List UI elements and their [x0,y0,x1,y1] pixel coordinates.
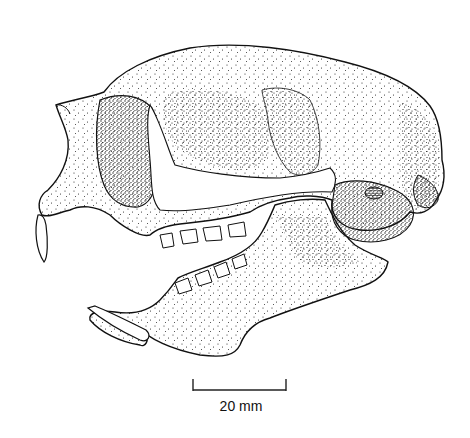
skull-illustration [0,0,470,438]
cranium [39,45,444,242]
auditory-meatus [365,187,383,199]
upper-teeth [160,222,246,248]
scale-bar-label: 20 mm [196,398,286,414]
scale-bar [193,379,286,391]
upper-canine [36,215,47,262]
